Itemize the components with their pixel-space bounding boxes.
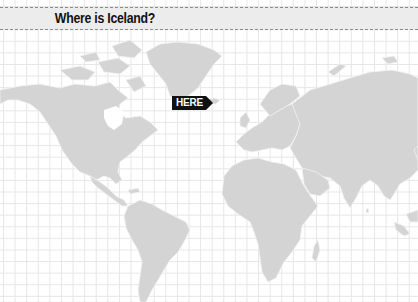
here-marker: HERE — [172, 96, 213, 110]
south-america — [124, 200, 190, 302]
world-map — [0, 30, 418, 302]
title-bar: Where is Iceland? — [0, 7, 418, 30]
arrow-right-icon — [206, 96, 213, 110]
greenland — [146, 42, 222, 100]
page-title: Where is Iceland? — [13, 8, 198, 28]
north-america — [0, 82, 158, 184]
here-label: HERE — [172, 96, 206, 110]
central-america — [90, 176, 128, 206]
